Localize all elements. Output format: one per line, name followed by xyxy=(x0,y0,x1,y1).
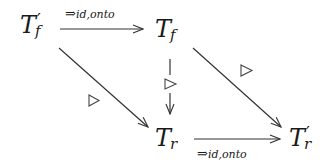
node-tf-prime: T′f xyxy=(20,13,41,37)
node-tf-prime-base: T xyxy=(20,11,36,39)
node-tr-prime-sub: r xyxy=(304,135,311,153)
label-bottom-arrow: ⇒id,onto xyxy=(197,146,247,161)
double-arrow-icon: ⇒ xyxy=(197,146,208,161)
arrow-tf-prime-to-tr xyxy=(59,48,148,127)
label-top-text: id,onto xyxy=(76,8,115,21)
node-tf-prime-sub: f xyxy=(35,22,41,40)
arrow-tf-to-tr-prime xyxy=(193,48,281,127)
triangle-marker-left xyxy=(89,95,99,106)
node-tr: Tr xyxy=(155,126,177,150)
node-tr-base: T xyxy=(155,124,171,152)
label-bottom-text: id,onto xyxy=(208,148,247,161)
node-tf: Tf xyxy=(155,17,176,41)
double-arrow-icon: ⇒ xyxy=(65,6,76,21)
node-tf-base: T xyxy=(155,15,171,43)
label-top-arrow: ⇒id,onto xyxy=(65,6,115,21)
node-tf-sub: f xyxy=(170,26,176,44)
node-tr-sub: r xyxy=(170,135,177,153)
node-tr-prime-base: T xyxy=(289,124,305,152)
node-tr-prime: T′r xyxy=(289,126,311,150)
triangle-marker-vertical xyxy=(165,79,176,89)
triangle-marker-right xyxy=(241,65,252,76)
